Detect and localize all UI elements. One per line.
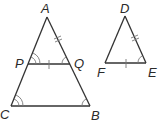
side-df <box>105 16 125 63</box>
similar-triangles-diagram: A P Q C B D F E <box>0 0 167 124</box>
label-e: E <box>148 65 157 80</box>
label-b: B <box>91 108 100 123</box>
label-c: C <box>0 107 10 122</box>
angle-arc-p-inner <box>31 57 36 64</box>
label-d: D <box>120 1 129 16</box>
triangle-dfe <box>105 16 146 68</box>
label-p: P <box>15 56 24 71</box>
label-a: A <box>40 1 50 16</box>
angle-arc-b <box>82 99 86 106</box>
label-q: Q <box>74 56 84 71</box>
angle-arc-e <box>138 56 142 63</box>
label-f: F <box>97 65 106 80</box>
angle-arc-q <box>62 57 66 64</box>
angle-arc-c-inner <box>14 99 19 106</box>
